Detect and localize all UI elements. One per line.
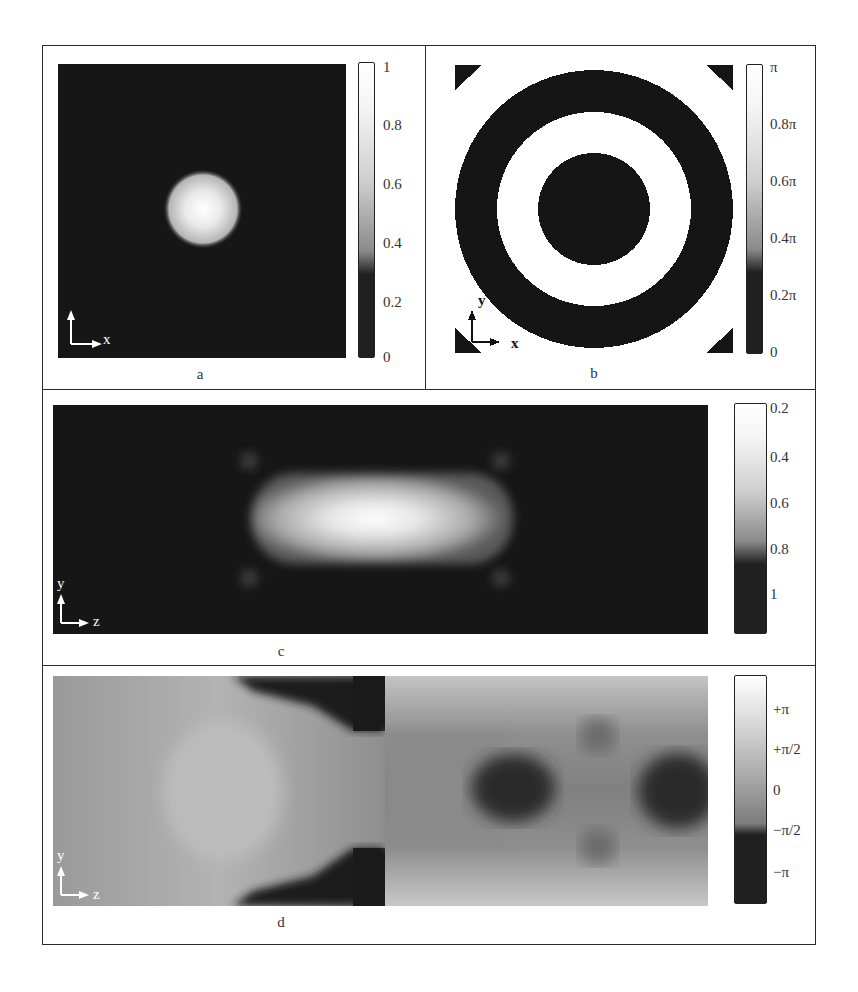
phase-dark-blob	[471, 754, 555, 822]
colorbar-b-tick: π	[770, 60, 778, 75]
colorbar-a-tick: 0.2	[383, 295, 402, 310]
colorbar-d-tick: −π/2	[773, 823, 801, 838]
axis-label-x: x	[511, 336, 519, 351]
colorbar-b-tick: 0.6π	[770, 174, 796, 189]
colorbar-c-tick: 1	[770, 587, 778, 602]
axis-label-z: z	[93, 887, 100, 902]
axis-label-y: y	[478, 293, 486, 308]
divider-row1	[42, 389, 816, 390]
colorbar-d	[734, 675, 767, 904]
colorbar-c-tick: 0.6	[770, 496, 789, 511]
colorbar-b-tick: 0.2π	[770, 288, 796, 303]
panel-a-caption: a	[190, 366, 210, 383]
colorbar-d-tick: +π	[773, 702, 789, 717]
panel-a-image	[58, 64, 346, 358]
axis-label-y: y	[57, 576, 65, 591]
inner-pi-disk	[538, 153, 650, 265]
panel-c-image	[53, 405, 708, 634]
colorbar-a-tick: 0.6	[383, 177, 402, 192]
divider-col	[425, 45, 426, 390]
colorbar-b-tick: 0.8π	[770, 117, 796, 132]
colorbar-a-tick: 0	[383, 350, 391, 365]
colorbar-a-tick: 0.8	[383, 118, 402, 133]
panel-c-caption: c	[271, 643, 291, 660]
colorbar-a	[358, 62, 375, 358]
intensity-spot	[163, 169, 243, 249]
colorbar-c	[734, 403, 767, 634]
panel-d-caption: d	[271, 914, 291, 931]
colorbar-b-tick: 0	[770, 345, 778, 360]
colorbar-b	[746, 64, 763, 354]
axis-label-z: z	[93, 614, 100, 629]
divider-row2	[42, 665, 816, 666]
axis-label-x: x	[103, 332, 111, 347]
colorbar-c-tick: 0.4	[770, 450, 789, 465]
colorbar-b-tick: 0.4π	[770, 231, 796, 246]
colorbar-d-tick: −π	[773, 865, 789, 880]
intensity-focus	[251, 473, 513, 564]
colorbar-d-tick: 0	[773, 783, 781, 798]
colorbar-c-tick: 0.2	[770, 401, 789, 416]
colorbar-d-tick: +π/2	[773, 742, 801, 757]
axis-label-y: y	[47, 298, 55, 313]
axis-label-y: y	[57, 848, 65, 863]
panel-b-image	[454, 64, 734, 354]
panel-d-image	[53, 676, 708, 906]
colorbar-a-tick: 1	[383, 60, 391, 75]
panel-b-caption: b	[584, 365, 604, 382]
colorbar-c-tick: 0.8	[770, 542, 789, 557]
colorbar-a-tick: 0.4	[383, 236, 402, 251]
